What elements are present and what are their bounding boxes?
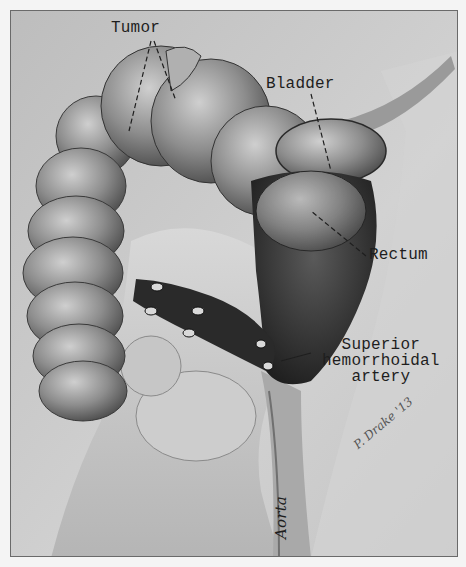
label-rectum: Rectum — [369, 247, 428, 264]
label-bladder: Bladder — [266, 76, 335, 93]
anatomy-drawing — [11, 11, 458, 557]
label-aorta: Aorta — [273, 496, 290, 539]
illustration-plate: Tumor Bladder Rectum Superior hemorrhoid… — [10, 10, 458, 557]
label-superior-hemorrhoidal-artery: Superior hemorrhoidal artery — [322, 337, 440, 385]
label-tumor: Tumor — [111, 20, 160, 37]
label-artery-line3: artery — [322, 369, 440, 385]
label-artery-line2: hemorrhoidal — [322, 353, 440, 369]
label-artery-line1: Superior — [322, 337, 440, 353]
